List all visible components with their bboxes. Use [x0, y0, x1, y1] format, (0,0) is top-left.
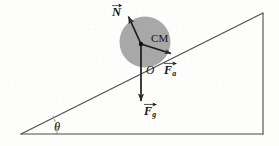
center-of-mass-label: CM [151, 33, 169, 44]
incline-angle-label: θ [54, 121, 60, 134]
normal-force-label: N [112, 6, 121, 19]
gravity-force-label: Fg [144, 105, 156, 117]
applied-force-subscript: a [172, 69, 176, 78]
normal-force-symbol: N [112, 5, 121, 19]
applied-force-label: Fa [164, 64, 176, 76]
gravity-force-subscript: g [152, 110, 156, 119]
physics-diagram [0, 0, 279, 146]
figure-canvas: . . . . . . . . . . . . . . . . . . . . … [0, 0, 279, 146]
gravity-force-symbol: F [144, 104, 152, 118]
contact-point-dot [139, 42, 143, 46]
origin-label: O [146, 65, 154, 77]
applied-force-symbol: F [164, 63, 172, 77]
